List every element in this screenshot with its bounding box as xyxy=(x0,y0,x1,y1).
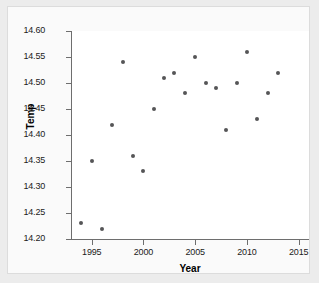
x-axis-title: Year xyxy=(71,263,309,274)
y-tick-mark xyxy=(66,239,71,240)
y-tick-mark xyxy=(66,161,71,162)
x-tick-mark xyxy=(92,240,93,245)
data-point xyxy=(224,128,228,132)
y-tick-mark xyxy=(66,135,71,136)
data-point xyxy=(204,81,208,85)
data-point xyxy=(162,76,166,80)
x-axis-line xyxy=(71,239,309,240)
y-tick-mark xyxy=(66,109,71,110)
x-tick-label: 2010 xyxy=(237,247,256,257)
data-point xyxy=(235,81,239,85)
y-axis-title: Temp xyxy=(25,104,36,130)
y-tick-mark xyxy=(66,57,71,58)
y-tick-label: 14.20 xyxy=(23,233,45,243)
data-point xyxy=(121,60,125,64)
plot-area xyxy=(71,31,309,240)
data-point xyxy=(100,227,104,231)
y-tick-label: 14.25 xyxy=(23,207,45,217)
x-tick-label: 1995 xyxy=(82,247,101,257)
y-tick-mark xyxy=(66,31,71,32)
y-tick-label: 14.30 xyxy=(23,181,45,191)
x-tick-label: 2015 xyxy=(289,247,308,257)
data-point xyxy=(152,107,156,111)
y-tick-label: 14.35 xyxy=(23,155,45,165)
data-point xyxy=(276,71,280,75)
scatter-plot-figure: 14.2014.2514.3014.3514.4014.4514.5014.55… xyxy=(0,0,319,283)
x-tick-mark xyxy=(299,240,300,245)
y-tick-label: 14.60 xyxy=(23,25,45,35)
x-tick-mark xyxy=(143,240,144,245)
y-axis-line xyxy=(71,31,72,240)
data-point xyxy=(245,50,249,54)
y-tick-label: 14.55 xyxy=(23,51,45,61)
figure-panel: 14.2014.2514.3014.3514.4014.4514.5014.55… xyxy=(7,6,310,274)
data-point xyxy=(131,154,135,158)
data-point xyxy=(90,159,94,163)
y-tick-label: 14.50 xyxy=(23,77,45,87)
y-tick-mark xyxy=(66,83,71,84)
y-tick-mark xyxy=(66,187,71,188)
x-tick-mark xyxy=(247,240,248,245)
y-tick-mark xyxy=(66,213,71,214)
y-tick-label: 14.40 xyxy=(23,129,45,139)
x-tick-mark xyxy=(195,240,196,245)
x-tick-label: 2000 xyxy=(134,247,153,257)
x-tick-label: 2005 xyxy=(186,247,205,257)
